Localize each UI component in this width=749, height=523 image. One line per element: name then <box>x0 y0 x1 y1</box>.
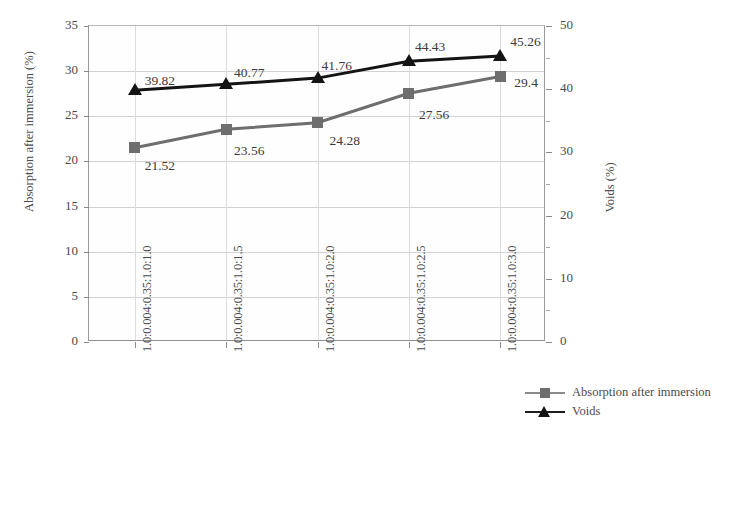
triangle-marker <box>219 77 233 89</box>
tick-mark-right-major <box>546 89 552 90</box>
right-axis-tick-label: 0 <box>560 333 600 349</box>
gridline-horizontal <box>89 252 544 253</box>
gridline-vertical <box>409 26 410 340</box>
tick-mark-left <box>84 207 89 208</box>
gridline-vertical <box>226 26 227 340</box>
triangle-marker <box>493 49 507 61</box>
gridline-vertical <box>135 26 136 340</box>
x-axis-category-label: 1.0:0.004:0.35:1.0:1.5 <box>231 182 246 352</box>
triangle-marker-icon <box>525 405 565 419</box>
legend-label-voids: Voids <box>572 404 600 419</box>
tick-mark-x <box>409 342 410 348</box>
left-axis-tick-label: 5 <box>38 288 78 304</box>
legend-item-voids[interactable]: Voids <box>525 402 711 421</box>
data-point-label: 44.43 <box>415 39 445 55</box>
square-marker <box>312 117 323 128</box>
tick-mark-x <box>226 342 227 348</box>
tick-mark-right-minor <box>546 184 550 185</box>
right-axis-title: Voids (%) <box>603 123 618 253</box>
left-axis-tick-label: 0 <box>38 333 78 349</box>
square-marker <box>129 142 140 153</box>
data-point-label: 29.4 <box>514 75 538 91</box>
triangle-marker <box>128 83 142 95</box>
chart-figure: Absorption after immersion (%) Voids (%)… <box>0 0 749 523</box>
tick-mark-x <box>500 342 501 348</box>
right-axis-tick-label: 40 <box>560 80 600 96</box>
tick-mark-right-major <box>546 152 552 153</box>
data-point-label: 45.26 <box>510 34 540 50</box>
triangle-marker <box>402 54 416 66</box>
data-point-label: 21.52 <box>145 158 175 174</box>
data-point-label: 23.56 <box>234 143 264 159</box>
right-axis-tick-label: 30 <box>560 143 600 159</box>
square-marker <box>495 71 506 82</box>
left-axis-tick-label: 20 <box>38 152 78 168</box>
gridline-horizontal <box>89 207 544 208</box>
tick-mark-right-minor <box>546 58 550 59</box>
tick-mark-right-major <box>546 216 552 217</box>
left-axis-tick-label: 30 <box>38 62 78 78</box>
legend-item-absorption[interactable]: Absorption after immersion <box>525 383 711 402</box>
tick-mark-right-major <box>546 26 552 27</box>
square-marker <box>403 88 414 99</box>
square-marker <box>221 124 232 135</box>
square-marker-icon <box>525 386 565 400</box>
legend-label-absorption: Absorption after immersion <box>572 385 711 400</box>
right-axis-tick-label: 10 <box>560 270 600 286</box>
x-axis-category-label: 1.0:0.004:0.35:1.0:3.0 <box>505 182 520 352</box>
tick-mark-x <box>318 342 319 348</box>
left-axis-tick-label: 15 <box>38 198 78 214</box>
tick-mark-right-minor <box>546 310 550 311</box>
tick-mark-x <box>135 342 136 348</box>
tick-mark-left <box>84 342 89 343</box>
left-axis-tick-label: 25 <box>38 107 78 123</box>
chart-legend: Absorption after immersion Voids <box>525 383 711 421</box>
tick-mark-left <box>84 297 89 298</box>
tick-mark-right-major <box>546 342 552 343</box>
right-axis-tick-label: 20 <box>560 207 600 223</box>
tick-mark-left <box>84 116 89 117</box>
x-axis-category-label: 1.0:0.004:0.35:1.0:1.0 <box>140 182 155 352</box>
data-point-label: 41.76 <box>322 58 352 74</box>
right-axis-tick-label: 50 <box>560 17 600 33</box>
tick-mark-left <box>84 26 89 27</box>
left-axis-tick-label: 35 <box>38 17 78 33</box>
x-axis-category-label: 1.0:0.004:0.35:1.0:2.0 <box>323 182 338 352</box>
left-axis-title: Absorption after immersion (%) <box>22 7 37 257</box>
data-point-label: 24.28 <box>330 133 360 149</box>
data-point-label: 40.77 <box>234 65 264 81</box>
x-axis-category-label: 1.0:0.004:0.35:1.0:2.5 <box>414 182 429 352</box>
gridline-horizontal <box>89 297 544 298</box>
data-point-label: 27.56 <box>419 107 449 123</box>
left-axis-tick-label: 10 <box>38 243 78 259</box>
data-point-label: 39.82 <box>145 73 175 89</box>
tick-mark-left <box>84 252 89 253</box>
tick-mark-right-major <box>546 279 552 280</box>
tick-mark-right-minor <box>546 247 550 248</box>
tick-mark-right-minor <box>546 121 550 122</box>
plot-area: 21.5223.5624.2827.5629.439.8240.7741.764… <box>88 25 545 341</box>
tick-mark-left <box>84 71 89 72</box>
tick-mark-left <box>84 161 89 162</box>
